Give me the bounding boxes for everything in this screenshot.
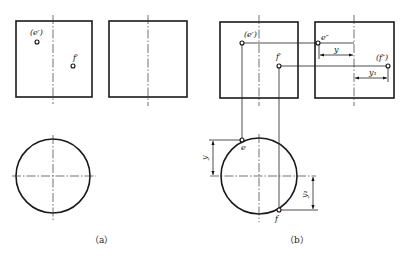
label-dim-y1: y₁ [368,68,377,77]
point-e-prime [35,40,39,44]
label-dim-y-top: y [200,155,209,161]
point-f-prime [71,64,75,68]
label-dim-y: y [333,45,339,54]
point-f-prime [277,64,281,68]
label-e: e [241,143,246,152]
label-e-prime: (e′) [30,28,43,37]
projection-diagram: (e′) f′ （a） (e′) f′ e″ (f″) y [0,0,406,258]
label-e-double-prime: e″ [321,33,329,42]
panel-b: (e′) f′ e″ (f″) y y₁ e f y y₁ （b） [200,15,394,245]
caption-a: （a） [90,235,113,245]
caption-b: （b） [285,235,309,245]
label-dim-y1-top: y₁ [300,190,309,199]
panel-a: (e′) f′ （a） [12,15,187,245]
label-f-double-prime: (f″) [376,53,388,62]
point-f-double-prime [386,64,390,68]
label-e-prime: (e′) [244,30,257,39]
point-e-prime [240,41,244,45]
label-f: f [274,214,280,223]
point-e-double-prime [316,41,320,45]
front-view-square-a [16,21,92,97]
label-f-prime: f′ [72,53,78,62]
label-f-prime: f′ [275,52,281,61]
point-f [277,208,281,212]
